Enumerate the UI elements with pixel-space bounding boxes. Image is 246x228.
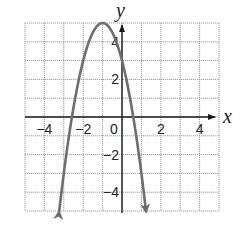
y-tick-label: −4 — [103, 184, 119, 200]
x-tick-label: −2 — [75, 121, 91, 137]
x-axis-label: x — [222, 105, 232, 127]
y-axis-label: y — [114, 0, 125, 22]
y-tick-label: 2 — [111, 71, 119, 87]
parabola-graph: −4−2024−4−224 x y — [0, 0, 246, 228]
x-tick-label: 0 — [110, 121, 118, 137]
x-tick-label: 2 — [157, 121, 165, 137]
x-tick-label: −4 — [36, 121, 52, 137]
x-tick-label: 4 — [196, 121, 204, 137]
y-tick-label: −2 — [103, 147, 119, 163]
